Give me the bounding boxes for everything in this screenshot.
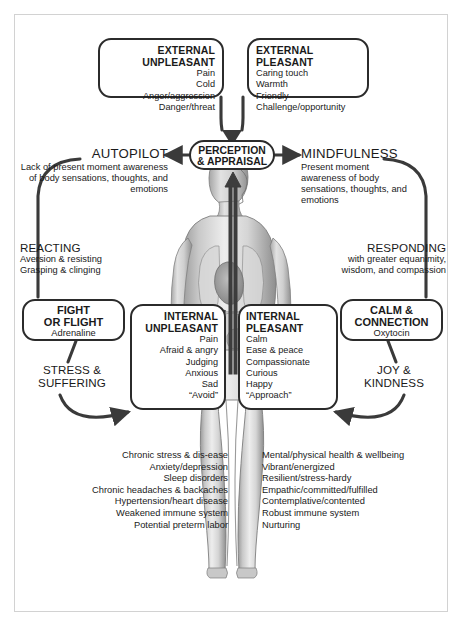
external-pleasant-item-3: Challenge/opportunity (256, 102, 363, 113)
external-unpleasant-item-0: Pain (105, 68, 215, 79)
calm-connection-hormone: Oxytocin (342, 328, 441, 339)
diagram-canvas: EXTERNAL UNPLEASANT Pain Cold Anger/aggr… (0, 0, 464, 628)
responding-line1: with greater equanimity, (288, 254, 446, 265)
list-item: Vibrant/energized (262, 462, 460, 474)
external-unpleasant-item-3: Danger/threat (105, 102, 215, 113)
responding-group[interactable]: RESPONDING with greater equanimity, wisd… (288, 241, 446, 276)
calm-connection-heading-line2: CONNECTION (342, 316, 441, 328)
reacting-group[interactable]: REACTING Aversion & resisting Grasping &… (20, 241, 180, 276)
external-unpleasant-item-2: Anger/aggression (105, 91, 215, 102)
joy-kindness-line1: JOY & (344, 363, 444, 376)
stress-suffering-group[interactable]: STRESS & SUFFERING (22, 363, 122, 389)
list-item: Potential preterm labor (18, 520, 228, 532)
external-pleasant-heading-line2: PLEASANT (256, 57, 363, 69)
fight-or-flight-heading-line2: OR FLIGHT (24, 316, 123, 328)
internal-pleasant-heading-line2: PLEASANT (246, 323, 332, 335)
reacting-line1: Aversion & resisting (20, 254, 180, 265)
stress-suffering-line1: STRESS & (22, 363, 122, 376)
list-item: Sleep disorders (18, 473, 228, 485)
mindfulness-heading: MINDFULNESS (301, 147, 413, 161)
internal-pleasant-item-3: Curious (246, 368, 332, 379)
joy-kindness-group[interactable]: JOY & KINDNESS (344, 363, 444, 389)
perception-line2: & APPRAISAL (191, 156, 273, 168)
fight-or-flight-heading-line1: FIGHT (24, 304, 123, 316)
fight-or-flight-box[interactable]: FIGHT OR FLIGHT Adrenaline (22, 299, 125, 341)
list-item: Chronic headaches & backaches (18, 485, 228, 497)
autopilot-description: Lack of present moment awareness of body… (18, 162, 168, 194)
list-item: Empathic/committed/fulfilled (262, 485, 460, 497)
responding-line2: wisdom, and compassion (288, 265, 446, 276)
internal-unpleasant-item-5: “Avoid” (136, 390, 218, 401)
fight-or-flight-hormone: Adrenaline (24, 328, 123, 339)
external-pleasant-item-2: Friendly (256, 91, 363, 102)
list-item: Nurturing (262, 520, 460, 532)
autopilot-heading: AUTOPILOT (18, 147, 168, 161)
internal-pleasant-item-1: Ease & peace (246, 345, 332, 356)
list-item: Hypertension/heart disease (18, 496, 228, 508)
reacting-line2: Grasping & clinging (20, 265, 180, 276)
list-item: Weakened immune system (18, 508, 228, 520)
outcomes-negative-list: Chronic stress & dis-ease Anxiety/depres… (18, 450, 228, 531)
calm-connection-box[interactable]: CALM & CONNECTION Oxytocin (340, 299, 443, 341)
internal-unpleasant-item-3: Anxious (136, 368, 218, 379)
list-item: Contemplative/contented (262, 496, 460, 508)
list-item: Mental/physical health & wellbeing (262, 450, 460, 462)
internal-unpleasant-box[interactable]: INTERNAL UNPLEASANT Pain Afraid & angry … (130, 304, 226, 410)
internal-unpleasant-item-1: Afraid & angry (136, 345, 218, 356)
mindfulness-description: Present moment awareness of body sensati… (301, 162, 413, 205)
joy-kindness-line2: KINDNESS (344, 376, 444, 389)
responding-heading: RESPONDING (288, 241, 446, 254)
external-pleasant-item-0: Caring touch (256, 68, 363, 79)
internal-pleasant-item-5: “Approach” (246, 390, 332, 401)
perception-appraisal-box[interactable]: PERCEPTION & APPRAISAL (189, 140, 275, 170)
stress-suffering-line2: SUFFERING (22, 376, 122, 389)
internal-pleasant-box[interactable]: INTERNAL PLEASANT Calm Ease & peace Comp… (238, 304, 338, 410)
list-item: Robust immune system (262, 508, 460, 520)
internal-unpleasant-heading-line2: UNPLEASANT (136, 323, 218, 335)
outcomes-positive-list: Mental/physical health & wellbeing Vibra… (262, 450, 460, 531)
calm-connection-heading-line1: CALM & (342, 304, 441, 316)
internal-unpleasant-heading-line1: INTERNAL (136, 311, 218, 323)
internal-unpleasant-item-0: Pain (136, 334, 218, 345)
list-item: Resilient/stress-hardy (262, 473, 460, 485)
external-unpleasant-heading-line1: EXTERNAL (105, 45, 215, 57)
internal-pleasant-item-4: Happy (246, 379, 332, 390)
list-item: Anxiety/depression (18, 462, 228, 474)
external-unpleasant-heading-line2: UNPLEASANT (105, 57, 215, 69)
external-unpleasant-box[interactable]: EXTERNAL UNPLEASANT Pain Cold Anger/aggr… (98, 38, 224, 98)
autopilot-group[interactable]: AUTOPILOT Lack of present moment awarene… (18, 147, 168, 195)
internal-unpleasant-item-2: Judging (136, 357, 218, 368)
internal-unpleasant-item-4: Sad (136, 379, 218, 390)
internal-pleasant-heading-line1: INTERNAL (246, 311, 332, 323)
external-pleasant-item-1: Warmth (256, 79, 363, 90)
list-item: Chronic stress & dis-ease (18, 450, 228, 462)
external-unpleasant-item-1: Cold (105, 79, 215, 90)
internal-pleasant-item-2: Compassionate (246, 357, 332, 368)
mindfulness-group[interactable]: MINDFULNESS Present moment awareness of … (301, 147, 413, 205)
internal-pleasant-item-0: Calm (246, 334, 332, 345)
external-pleasant-box[interactable]: EXTERNAL PLEASANT Caring touch Warmth Fr… (247, 38, 369, 98)
external-pleasant-heading-line1: EXTERNAL (256, 45, 363, 57)
perception-line1: PERCEPTION (191, 145, 273, 157)
reacting-heading: REACTING (20, 241, 180, 254)
